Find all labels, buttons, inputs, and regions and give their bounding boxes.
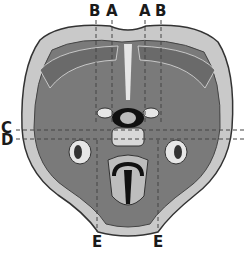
label-plane-a-right: A — [139, 4, 151, 19]
label-plane-a-left: A — [106, 4, 118, 19]
label-plane-e-left: E — [92, 235, 102, 250]
label-plane-b-left: B — [89, 4, 100, 19]
label-plane-b-right: B — [155, 4, 166, 19]
label-plane-e-right: E — [153, 235, 163, 250]
label-plane-d: D — [1, 133, 13, 148]
neck-cross-section-diagram — [0, 0, 245, 253]
